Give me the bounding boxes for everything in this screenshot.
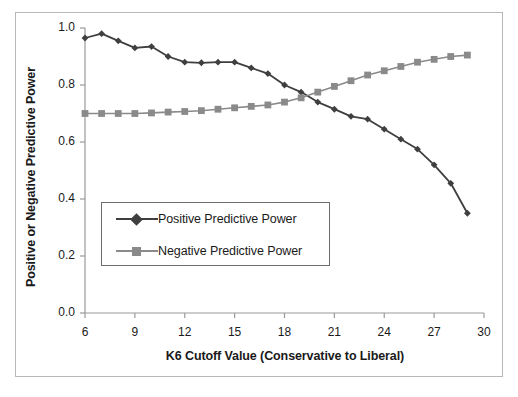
data-point-marker bbox=[98, 30, 105, 37]
x-axis-tick-label: 21 bbox=[319, 325, 349, 339]
x-axis-tick-label: 15 bbox=[220, 325, 250, 339]
x-axis-tick-label: 6 bbox=[70, 325, 100, 339]
x-axis-tick-label: 9 bbox=[120, 325, 150, 339]
data-point-marker bbox=[397, 63, 404, 70]
data-point-marker bbox=[364, 72, 371, 79]
x-axis-tick-label: 30 bbox=[469, 325, 499, 339]
x-axis-tick-label: 12 bbox=[170, 325, 200, 339]
data-point-marker bbox=[348, 113, 355, 120]
y-axis-tick-label: 0.6 bbox=[41, 134, 75, 148]
data-point-marker bbox=[331, 83, 338, 90]
data-point-marker bbox=[231, 59, 238, 66]
data-point-marker bbox=[248, 103, 255, 110]
data-point-marker bbox=[464, 52, 471, 59]
data-point-marker bbox=[165, 109, 172, 116]
data-point-marker bbox=[115, 37, 122, 44]
series-line-positive bbox=[85, 34, 467, 214]
legend-swatch-negative bbox=[116, 242, 158, 260]
series-line-negative bbox=[85, 55, 467, 113]
data-point-marker bbox=[298, 94, 305, 101]
x-axis-tick-label: 27 bbox=[419, 325, 449, 339]
data-point-marker bbox=[464, 210, 471, 217]
data-point-marker bbox=[447, 53, 454, 60]
y-axis-tick-label: 1.0 bbox=[41, 20, 75, 34]
legend-swatch-positive bbox=[116, 210, 158, 228]
x-axis-title: K6 Cutoff Value (Conservative to Liberal… bbox=[80, 349, 490, 363]
data-point-marker bbox=[131, 110, 138, 117]
y-axis-tick-label: 0.8 bbox=[41, 77, 75, 91]
chart-axes bbox=[80, 28, 484, 318]
chart-series bbox=[82, 30, 471, 216]
data-point-marker bbox=[331, 106, 338, 113]
data-point-marker bbox=[231, 104, 238, 111]
data-point-marker bbox=[215, 106, 222, 113]
legend-item-positive: Positive Predictive Power bbox=[102, 203, 329, 235]
chart-legend: Positive Predictive Power Negative Predi… bbox=[101, 202, 330, 266]
y-axis-tick-label: 0.0 bbox=[41, 305, 75, 319]
legend-label-positive: Positive Predictive Power bbox=[158, 212, 297, 226]
data-point-marker bbox=[431, 56, 438, 63]
data-point-marker bbox=[348, 77, 355, 84]
data-point-marker bbox=[264, 102, 271, 109]
y-axis-tick-label: 0.2 bbox=[41, 248, 75, 262]
legend-marker-sample bbox=[130, 213, 143, 226]
data-point-marker bbox=[281, 99, 288, 106]
y-axis-title: Positive or Negative Predictive Power bbox=[24, 47, 38, 307]
y-axis-tick-label: 0.4 bbox=[41, 191, 75, 205]
data-point-marker bbox=[414, 59, 421, 66]
data-point-marker bbox=[148, 110, 155, 117]
legend-label-negative: Negative Predictive Power bbox=[158, 244, 302, 258]
x-axis-tick-label: 18 bbox=[270, 325, 300, 339]
data-point-marker bbox=[314, 89, 321, 96]
data-point-marker bbox=[131, 45, 138, 52]
data-point-marker bbox=[98, 110, 105, 117]
data-point-marker bbox=[215, 59, 222, 66]
data-point-marker bbox=[181, 108, 188, 115]
data-point-marker bbox=[82, 35, 89, 42]
data-point-marker bbox=[248, 65, 255, 72]
x-axis-tick-label: 24 bbox=[369, 325, 399, 339]
data-point-marker bbox=[198, 107, 205, 114]
data-point-marker bbox=[381, 67, 388, 74]
data-point-marker bbox=[198, 59, 205, 66]
data-point-marker bbox=[82, 110, 89, 117]
legend-item-negative: Negative Predictive Power bbox=[102, 235, 329, 267]
chart-plot-area: Positive or Negative Predictive Power K6… bbox=[0, 0, 518, 397]
legend-marker-sample bbox=[132, 247, 141, 256]
data-point-marker bbox=[181, 59, 188, 66]
data-point-marker bbox=[115, 110, 122, 117]
